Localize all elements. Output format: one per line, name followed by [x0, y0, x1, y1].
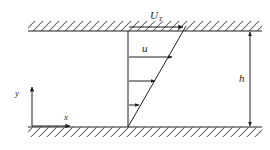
- gap-height-label: h: [239, 72, 245, 84]
- couette-flow-figure: UT u h y x: [0, 0, 270, 150]
- x-axis-label: x: [63, 112, 68, 122]
- top-plate: [28, 21, 262, 31]
- velocity-profile-label: u: [142, 42, 148, 54]
- couette-flow-diagram: UT u h y x: [0, 0, 270, 150]
- coordinate-axes: y x: [14, 87, 70, 126]
- bottom-plate-hatching: [28, 127, 262, 137]
- velocity-profile-group: u: [128, 26, 186, 127]
- profile-envelope-line: [128, 26, 186, 127]
- bottom-plate: [28, 127, 262, 137]
- gap-height-dimension: h: [239, 32, 250, 126]
- y-axis-label: y: [14, 88, 19, 98]
- top-plate-hatching: [28, 21, 262, 31]
